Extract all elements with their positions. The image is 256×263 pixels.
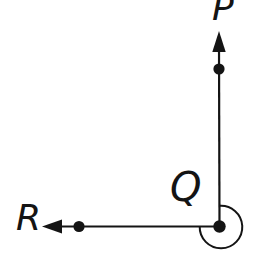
point-on-ray-qp bbox=[213, 63, 224, 74]
ray-qp-arrowhead-icon bbox=[212, 31, 225, 52]
ray-qp-line bbox=[219, 50, 220, 227]
geometry-diagram: P Q R bbox=[0, 0, 256, 263]
point-on-ray-qr bbox=[73, 221, 84, 232]
label-r: R bbox=[16, 200, 41, 236]
label-q: Q bbox=[170, 167, 201, 207]
ray-qr-arrowhead-icon bbox=[42, 220, 62, 234]
label-p: P bbox=[212, 0, 234, 26]
vertex-q-point bbox=[213, 220, 225, 232]
